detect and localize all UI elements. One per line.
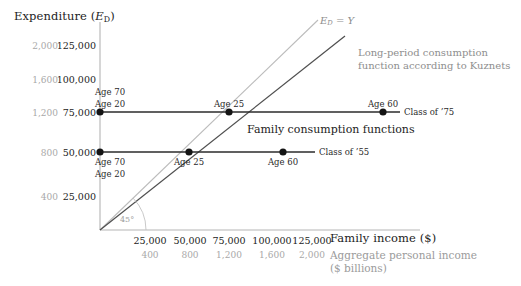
data-point-class75-age25	[225, 108, 232, 115]
series-label-class-75: Class of ’75	[404, 108, 454, 117]
x-tick-label-25000: 25,000	[133, 236, 166, 246]
point-label-class75-age60: Age 60	[368, 100, 398, 109]
x-tick-secondary-1600: 1,600	[259, 251, 285, 260]
y-tick-secondary-1600: 1,600	[18, 76, 58, 85]
x-tick-label-75000: 75,000	[212, 236, 245, 246]
point-label-class75-age20: Age 20	[95, 100, 125, 109]
y-tick-secondary-2000: 2,000	[18, 42, 58, 51]
kuznets-curve-label: Long-period consumption function accordi…	[358, 46, 510, 72]
data-point-class55-age25	[185, 148, 192, 155]
point-label-class55-age70: Age 70	[95, 158, 125, 167]
y-tick-secondary-1200: 1,200	[18, 109, 58, 118]
data-point-class75-age20-70	[96, 108, 103, 115]
y-tick-secondary-400: 400	[18, 193, 58, 202]
y-axis-title: Expenditure (ED)	[14, 11, 115, 24]
point-label-class75-age70: Age 70	[95, 88, 125, 97]
x-tick-secondary-400: 400	[141, 251, 158, 260]
series-label-class-55: Class of ’55	[319, 148, 369, 157]
consumption-function-chart: Expenditure (ED) 125,000 100,000 75,000 …	[0, 0, 521, 286]
x-tick-secondary-800: 800	[181, 251, 198, 260]
x-tick-secondary-2000: 2,000	[299, 251, 325, 260]
point-label-class55-age20: Age 20	[95, 170, 125, 179]
y-tick-secondary-800: 800	[18, 149, 58, 158]
data-point-class75-age60	[379, 108, 386, 115]
point-label-class55-age25: Age 25	[174, 158, 204, 167]
kuznets-curve-label-line1: Long-period consumption	[358, 47, 488, 58]
x-tick-secondary-1200: 1,200	[216, 251, 242, 260]
x-tick-label-125000: 125,000	[292, 236, 331, 246]
x-axis-title-secondary: Aggregate personal income ($ billions)	[330, 249, 477, 275]
x-axis-title-secondary-line2: ($ billions)	[330, 262, 387, 274]
data-point-class55-age20-70	[96, 148, 103, 155]
angle-45-label: 45°	[120, 216, 134, 224]
x-tick-label-100000: 100,000	[252, 236, 291, 246]
family-consumption-functions-label: Family consumption functions	[247, 124, 415, 135]
x-axis-title: Family income ($)	[330, 233, 436, 245]
reference-line-equation-label: ED = Y	[320, 16, 354, 27]
x-tick-label-50000: 50,000	[173, 236, 206, 246]
x-axis-title-secondary-line1: Aggregate personal income	[330, 249, 477, 261]
point-label-class55-age60: Age 60	[268, 158, 298, 167]
kuznets-curve-label-line2: function according to Kuznets	[358, 60, 510, 71]
point-label-class75-age25: Age 25	[214, 100, 244, 109]
data-point-class55-age60	[279, 148, 286, 155]
